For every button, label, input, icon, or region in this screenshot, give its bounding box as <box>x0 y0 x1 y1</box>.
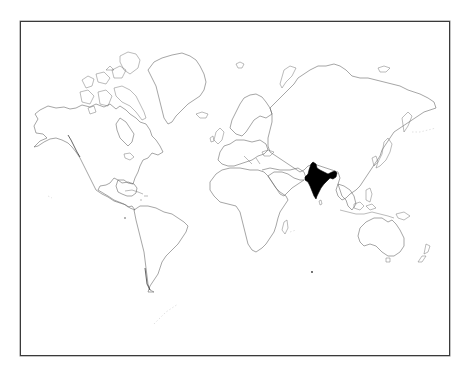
world-map: World map with India highlighted <box>0 0 468 374</box>
australia <box>358 218 430 262</box>
faint-island-chains <box>48 128 436 324</box>
kerguelen-dot <box>311 271 313 273</box>
galapagos-dot <box>124 217 125 218</box>
india-highlighted[interactable] <box>305 162 337 199</box>
europe <box>210 94 274 166</box>
arctic-archipelago <box>80 52 146 120</box>
asia <box>268 64 436 220</box>
north-america <box>34 104 163 210</box>
middle-east <box>262 168 306 196</box>
greenland <box>148 53 244 124</box>
south-america <box>134 206 188 292</box>
africa <box>210 168 288 252</box>
